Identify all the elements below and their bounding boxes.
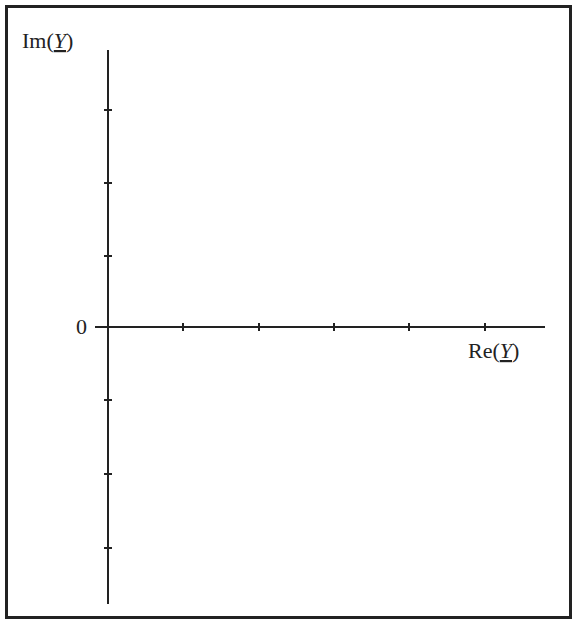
origin-label: 0 bbox=[76, 314, 87, 339]
y-axis-label: Im(Y) bbox=[22, 28, 73, 53]
axes bbox=[95, 50, 545, 604]
complex-plane-plot: Im(Y) 0 Re(Y) bbox=[0, 0, 578, 623]
x-axis-label: Re(Y) bbox=[468, 338, 519, 363]
tick-marks bbox=[104, 110, 485, 548]
